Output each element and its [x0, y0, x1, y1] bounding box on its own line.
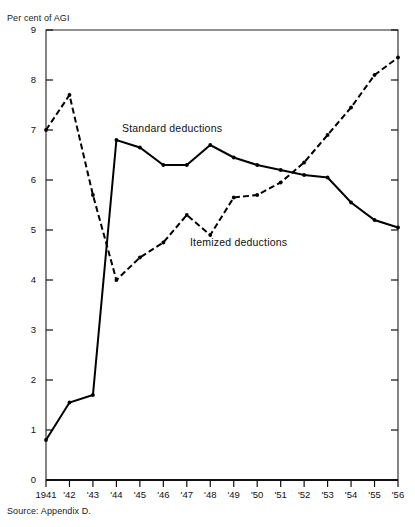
series-point: [349, 106, 353, 110]
series-point: [396, 56, 400, 60]
series-point: [279, 181, 283, 185]
y-tick-label: 7: [22, 124, 36, 135]
series-label: Itemized deductions: [190, 236, 287, 248]
series-point: [396, 226, 400, 230]
chart-figure: Per cent of AGI 0123456789 1941'42'43'44…: [0, 0, 415, 527]
series-point: [115, 278, 119, 282]
x-tick-label: '54: [340, 489, 362, 500]
series-point: [255, 193, 259, 197]
series-point: [326, 176, 330, 180]
series-point: [349, 201, 353, 205]
y-tick-label: 8: [22, 74, 36, 85]
series-point: [279, 168, 283, 172]
x-tick-label: '53: [317, 489, 339, 500]
chart-plot-svg: [0, 0, 415, 527]
chart-axis-ticks: [46, 30, 398, 487]
x-tick-label: '45: [129, 489, 151, 500]
x-tick-label: '55: [364, 489, 386, 500]
source-note: Source: Appendix D.: [7, 506, 91, 516]
series-point: [255, 163, 259, 167]
series-point: [115, 138, 119, 142]
series-point: [232, 156, 236, 160]
x-tick-label: '56: [387, 489, 409, 500]
y-tick-label: 9: [22, 24, 36, 35]
series-point: [91, 193, 95, 197]
x-tick-label: '42: [58, 489, 80, 500]
series-point: [68, 93, 72, 97]
series-point: [373, 73, 377, 77]
x-tick-label: '48: [199, 489, 221, 500]
y-tick-label: 5: [22, 224, 36, 235]
y-tick-label: 1: [22, 424, 36, 435]
series-point: [185, 213, 189, 217]
series-label: Standard deductions: [122, 122, 222, 134]
series-point: [232, 196, 236, 200]
series-point: [373, 218, 377, 222]
series-point: [302, 161, 306, 165]
y-tick-label: 2: [22, 374, 36, 385]
series-point: [68, 401, 72, 405]
y-tick-label: 3: [22, 324, 36, 335]
series-point: [161, 163, 165, 167]
series-line: [46, 140, 398, 440]
series-point: [44, 438, 48, 442]
y-tick-label: 0: [22, 474, 36, 485]
series-point: [91, 393, 95, 397]
x-tick-label: '52: [293, 489, 315, 500]
series-point: [208, 143, 212, 147]
x-tick-label: '44: [105, 489, 127, 500]
series-point: [326, 133, 330, 137]
x-tick-label: '43: [82, 489, 104, 500]
chart-series-lines: [44, 56, 400, 442]
series-point: [138, 146, 142, 150]
y-tick-label: 6: [22, 174, 36, 185]
y-tick-label: 4: [22, 274, 36, 285]
x-tick-label: '51: [270, 489, 292, 500]
x-tick-label: '47: [176, 489, 198, 500]
series-point: [161, 241, 165, 245]
series-point: [302, 173, 306, 177]
series-point: [185, 163, 189, 167]
x-tick-label: '49: [223, 489, 245, 500]
x-tick-label: '46: [152, 489, 174, 500]
x-tick-label: '50: [246, 489, 268, 500]
chart-axes: [46, 30, 398, 480]
series-point: [44, 128, 48, 132]
series-point: [138, 256, 142, 260]
